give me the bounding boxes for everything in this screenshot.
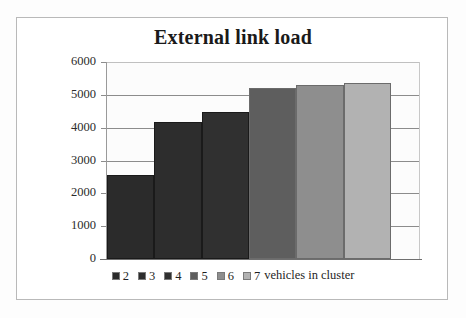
legend-suffix-label: vehicles in cluster xyxy=(264,268,354,283)
y-axis-tick-label: 3000 xyxy=(36,154,96,166)
legend-item[interactable]: 7vehicles in cluster xyxy=(243,268,355,283)
y-axis-tick-label: 1000 xyxy=(36,219,96,231)
bar xyxy=(344,83,391,259)
legend-label: 2 xyxy=(123,270,129,282)
legend-item[interactable]: 5 xyxy=(190,270,207,282)
legend-label: 5 xyxy=(201,270,207,282)
y-axis-tick-label: 5000 xyxy=(36,88,96,100)
chart-legend: 234567vehicles in cluster xyxy=(0,268,466,283)
legend-item[interactable]: 4 xyxy=(164,270,181,282)
plot-area xyxy=(106,62,420,259)
legend-swatch-icon xyxy=(243,272,251,280)
y-axis-tick-label: 6000 xyxy=(36,55,96,67)
legend-label: 6 xyxy=(228,270,234,282)
legend-swatch-icon xyxy=(217,272,225,280)
legend-label: 7 xyxy=(254,270,260,282)
bar xyxy=(107,175,154,259)
x-axis-baseline xyxy=(100,259,422,260)
bar xyxy=(249,88,296,259)
legend-item[interactable]: 6 xyxy=(217,270,234,282)
legend-swatch-icon xyxy=(138,272,146,280)
bar xyxy=(296,85,343,259)
bar xyxy=(154,122,201,259)
legend-label: 4 xyxy=(175,270,181,282)
y-axis-tick-label: 0 xyxy=(36,252,96,264)
bar-series xyxy=(107,62,419,259)
y-axis-tick-label: 4000 xyxy=(36,121,96,133)
legend-item[interactable]: 3 xyxy=(138,270,155,282)
chart-title: External link load xyxy=(0,26,466,49)
legend-item[interactable]: 2 xyxy=(112,270,129,282)
legend-swatch-icon xyxy=(190,272,198,280)
chart-figure: External link load 010002000300040005000… xyxy=(0,0,466,318)
bar xyxy=(202,112,249,259)
legend-label: 3 xyxy=(149,270,155,282)
legend-swatch-icon xyxy=(164,272,172,280)
legend-swatch-icon xyxy=(112,272,120,280)
y-axis-tick-label: 2000 xyxy=(36,186,96,198)
